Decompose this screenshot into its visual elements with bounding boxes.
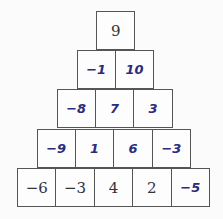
pyramid-cell: 10 (115, 50, 154, 89)
pyramid-cell: −8 (57, 89, 96, 128)
pyramid-row-3: −8 7 3 (57, 89, 173, 129)
pyramid-cell: −1 (77, 50, 116, 89)
pyramid-row-1: 9 (96, 11, 135, 51)
pyramid-cell: 3 (133, 89, 172, 128)
pyramid-row-2: −1 10 (77, 50, 155, 90)
pyramid-cell: 6 (113, 129, 152, 168)
pyramid-cell: −9 (37, 129, 76, 168)
pyramid-cell: 1 (75, 129, 114, 168)
pyramid-cell: −3 (55, 168, 94, 207)
number-pyramid: 9 −1 10 −8 7 3 −9 1 6 −3 −6 −3 4 2 −5 (0, 0, 223, 219)
pyramid-cell: 2 (132, 168, 171, 207)
pyramid-cell: 9 (96, 11, 135, 50)
pyramid-row-4: −9 1 6 −3 (37, 129, 192, 169)
pyramid-cell: −6 (17, 168, 56, 207)
pyramid-cell: 7 (95, 89, 134, 128)
pyramid-cell: −3 (152, 129, 191, 168)
pyramid-cell: −5 (171, 168, 210, 207)
pyramid-row-5: −6 −3 4 2 −5 (17, 168, 210, 208)
pyramid-cell: 4 (94, 168, 133, 207)
